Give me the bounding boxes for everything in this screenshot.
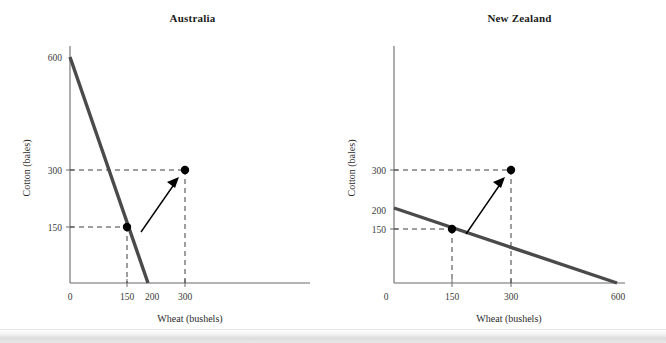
x-ticklabel-150-australia: 150 xyxy=(120,292,135,302)
x-ticklabel-200-australia: 200 xyxy=(145,292,160,302)
shift-arrow-line-australia xyxy=(141,183,175,232)
plot-area-australia: 600 300 150 0 150 200 300 Wheat (bushels… xyxy=(0,0,333,330)
data-point-consumption-australia xyxy=(181,166,189,174)
data-point-production-australia xyxy=(123,223,131,231)
chart-panel-australia: Australia 600 xyxy=(0,0,333,330)
x-ticklabel-0-australia: 0 xyxy=(68,292,73,302)
x-ticklabel-300-newzealand: 300 xyxy=(504,292,519,302)
y-ticklabel-200-newzealand: 200 xyxy=(372,206,387,216)
x-axis-title-australia: Wheat (bushels) xyxy=(157,313,222,325)
shift-arrow-head-newzealand xyxy=(493,177,505,188)
ppf-line-newzealand xyxy=(394,208,617,283)
x-axis-title-newzealand: Wheat (bushels) xyxy=(476,313,541,325)
y-ticklabel-300-newzealand: 300 xyxy=(372,166,387,176)
y-axis-title-australia: Cotton (bales) xyxy=(21,140,33,197)
x-ticklabel-150-newzealand: 150 xyxy=(445,292,460,302)
page-footer-band xyxy=(0,329,666,343)
two-panel-ppf-figure: Australia 600 xyxy=(0,0,666,343)
data-point-production-newzealand xyxy=(448,225,456,233)
y-ticklabel-300-australia: 300 xyxy=(48,166,63,176)
y-axis-title-newzealand: Cotton (bales) xyxy=(346,140,358,197)
y-ticklabel-150-newzealand: 150 xyxy=(372,225,387,235)
y-ticklabel-150-australia: 150 xyxy=(48,223,63,233)
x-ticklabel-0-newzealand: 0 xyxy=(384,292,389,302)
shift-arrow-head-australia xyxy=(167,177,179,188)
y-ticklabel-600-australia: 600 xyxy=(48,53,63,63)
x-ticklabel-600-newzealand: 600 xyxy=(611,292,626,302)
chart-panel-newzealand: New Zealand 300 xyxy=(333,0,666,330)
shift-arrow-line-newzealand xyxy=(466,183,501,234)
plot-area-newzealand: 300 200 150 0 150 300 600 Wheat (bushels… xyxy=(333,0,666,330)
x-ticklabel-300-australia: 300 xyxy=(178,292,193,302)
data-point-consumption-newzealand xyxy=(507,166,515,174)
